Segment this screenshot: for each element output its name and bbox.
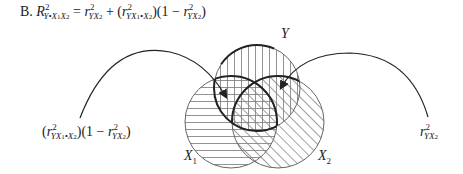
left-t-sub: YX [112, 131, 123, 141]
left-close: )(1 − [77, 124, 108, 139]
left-sub-dot: •X [65, 131, 74, 141]
right-sub-i: 2 [434, 133, 438, 141]
label-x1-text: X [184, 148, 193, 163]
label-left-term: (r2YX1•X2)(1 − r2YX2) [42, 122, 131, 141]
left-t-close: ) [126, 124, 131, 139]
left-sub: YX [51, 131, 62, 141]
label-x2-text: X [318, 148, 327, 163]
label-x1: X1 [184, 148, 197, 166]
label-x2-sub: 2 [327, 156, 332, 166]
venn-diagram [0, 0, 463, 174]
label-x2: X2 [318, 148, 331, 166]
right-sub: YX [424, 131, 435, 141]
label-right-term: r2YX2 [420, 122, 438, 141]
label-x1-sub: 1 [193, 156, 198, 166]
label-y-text: Y [281, 26, 289, 41]
label-y: Y [281, 26, 289, 42]
